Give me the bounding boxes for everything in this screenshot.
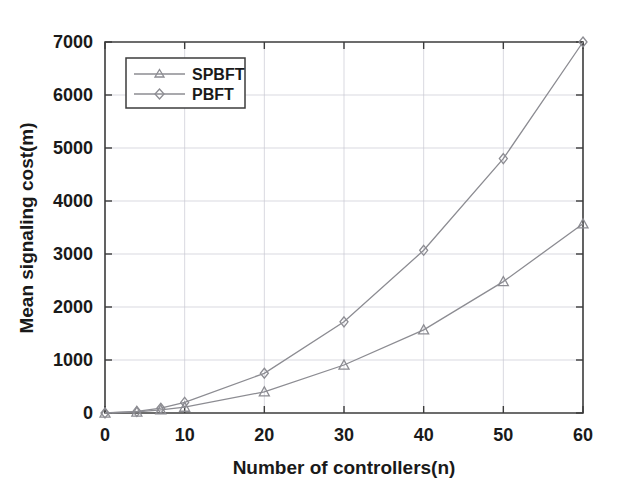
x-tick-label: 20 bbox=[254, 425, 274, 445]
x-tick-label: 50 bbox=[493, 425, 513, 445]
y-tick-label: 4000 bbox=[53, 191, 93, 211]
chart-figure: 01000200030004000500060007000 0102030405… bbox=[0, 0, 623, 496]
y-tick-label: 2000 bbox=[53, 297, 93, 317]
x-tick-label: 30 bbox=[334, 425, 354, 445]
y-tick-label: 1000 bbox=[53, 350, 93, 370]
x-axis-label: Number of controllers(n) bbox=[233, 457, 456, 478]
x-tick-label: 0 bbox=[100, 425, 110, 445]
chart-svg: 01000200030004000500060007000 0102030405… bbox=[0, 0, 623, 496]
y-tick-label: 5000 bbox=[53, 138, 93, 158]
legend-label-pbft: PBFT bbox=[192, 86, 234, 103]
y-tick-label: 7000 bbox=[53, 32, 93, 52]
chart-background bbox=[0, 0, 623, 496]
y-tick-label: 3000 bbox=[53, 244, 93, 264]
chart-legend: SPBFT PBFT bbox=[126, 58, 245, 108]
x-tick-label: 60 bbox=[573, 425, 593, 445]
legend-label-spbft: SPBFT bbox=[192, 66, 245, 83]
x-tick-label: 10 bbox=[175, 425, 195, 445]
y-axis-label: Mean signaling cost(m) bbox=[16, 122, 37, 333]
y-tick-label: 0 bbox=[83, 403, 93, 423]
x-tick-label: 40 bbox=[414, 425, 434, 445]
y-tick-label: 6000 bbox=[53, 85, 93, 105]
